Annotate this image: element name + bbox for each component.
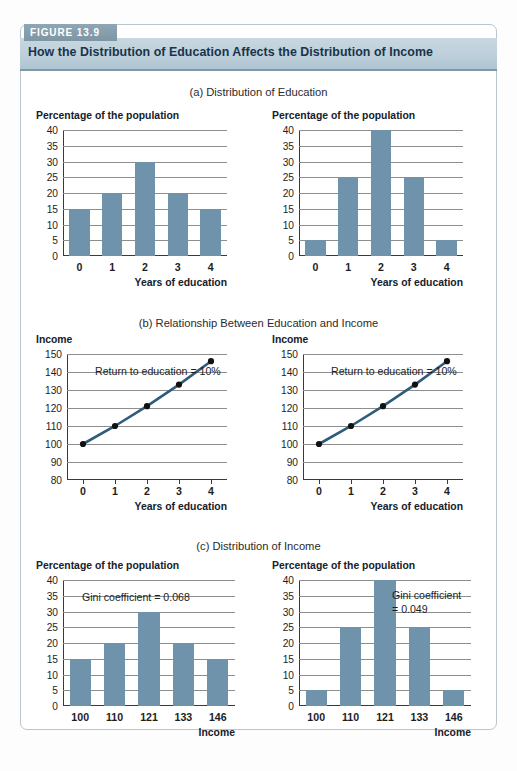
x-tick-label: 0	[312, 261, 318, 273]
x-tick-mark	[211, 479, 212, 484]
y-tick-label: 30	[47, 606, 58, 617]
bar	[173, 643, 194, 706]
figure-page: FIGURE 13.9 How the Distribution of Educ…	[0, 0, 517, 771]
y-tick-label: 100	[281, 439, 298, 450]
y-tick-label: 35	[283, 590, 294, 601]
x-tick-label: 121	[376, 711, 394, 723]
y-tick-label: 150	[281, 349, 298, 360]
y-tick-label: 10	[47, 219, 58, 230]
x-tick-label: 146	[445, 711, 463, 723]
chart-c-left: Percentage of the population051015202530…	[36, 560, 248, 726]
y-tick-label: 20	[47, 638, 58, 649]
bar	[305, 240, 325, 256]
x-tick-label: 2	[380, 485, 386, 497]
y-tick-label: 15	[47, 203, 58, 214]
section-c-caption: (c) Distribution of Income	[20, 540, 497, 552]
y-tick-label: 150	[45, 349, 62, 360]
section-a-caption: (a) Distribution of Education	[20, 86, 497, 98]
bar	[102, 193, 122, 256]
data-point	[112, 423, 118, 429]
chart-a-right: Percentage of the population051015202530…	[272, 110, 476, 276]
x-tick-label: 3	[411, 261, 417, 273]
bar	[104, 643, 125, 706]
x-tick-label: 133	[175, 711, 193, 723]
x-tick-label: 1	[348, 485, 354, 497]
x-axis-title: Income	[435, 727, 471, 738]
bar	[436, 240, 456, 256]
chart-axis-heading: Percentage of the population	[272, 560, 415, 571]
y-tick-label: 15	[283, 203, 294, 214]
chart-annotation: Return to education = 10%	[331, 364, 457, 378]
y-tick-label: 10	[47, 669, 58, 680]
x-tick-mark	[415, 479, 416, 484]
data-point	[144, 403, 150, 409]
x-tick-label: 2	[378, 261, 384, 273]
x-tick-label: 0	[76, 261, 82, 273]
grid-line	[63, 130, 227, 131]
y-tick-label: 140	[45, 367, 62, 378]
y-tick-label: 15	[47, 653, 58, 664]
x-tick-mark	[383, 479, 384, 484]
bar	[70, 659, 91, 706]
section-b-caption: (b) Relationship Between Education and I…	[20, 317, 497, 329]
chart-a-left: Percentage of the population051015202530…	[36, 110, 240, 276]
y-tick-label: 100	[45, 439, 62, 450]
x-tick-label: 4	[208, 485, 214, 497]
x-axis-title: Years of education	[371, 277, 463, 288]
chart-annotation-line1: Gini coefficient	[392, 588, 470, 602]
y-tick-label: 15	[283, 653, 294, 664]
y-tick-label: 20	[283, 638, 294, 649]
plot-area: 051015202530354001234	[63, 130, 227, 256]
bar	[338, 177, 358, 256]
chart-annotation: Return to education = 10%	[95, 364, 221, 378]
x-tick-mark	[83, 479, 84, 484]
grid-line	[63, 580, 235, 581]
y-tick-label: 35	[47, 140, 58, 151]
bar	[138, 612, 159, 707]
x-tick-mark	[351, 479, 352, 484]
y-tick-label: 90	[287, 457, 298, 468]
x-tick-label: 110	[106, 711, 123, 723]
x-tick-label: 1	[345, 261, 351, 273]
data-point	[412, 382, 418, 388]
x-tick-mark	[319, 479, 320, 484]
y-tick-label: 40	[283, 575, 294, 586]
chart-axis-heading: Percentage of the population	[36, 110, 179, 121]
plot-area: 051015202530354001234	[299, 130, 463, 256]
x-tick-label: 1	[109, 261, 115, 273]
y-tick-label: 10	[283, 219, 294, 230]
y-tick-label: 10	[283, 669, 294, 680]
x-tick-label: 2	[144, 485, 150, 497]
y-tick-label: 35	[47, 590, 58, 601]
y-tick-label: 25	[47, 622, 58, 633]
y-tick-label: 30	[283, 156, 294, 167]
y-tick-label: 5	[288, 235, 294, 246]
x-tick-label: 4	[444, 485, 450, 497]
x-tick-label: 3	[412, 485, 418, 497]
x-tick-mark	[447, 479, 448, 484]
x-tick-label: 2	[142, 261, 148, 273]
y-tick-label: 90	[51, 457, 62, 468]
x-axis-title: Income	[199, 727, 235, 738]
figure-number-label: FIGURE 13.9	[24, 24, 117, 41]
y-tick-label: 35	[283, 140, 294, 151]
x-tick-label: 4	[208, 261, 214, 273]
y-tick-label: 0	[288, 701, 294, 712]
x-axis-title: Years of education	[371, 501, 463, 512]
bar	[135, 162, 155, 257]
chart-axis-heading: Income	[272, 334, 308, 345]
x-tick-mark	[115, 479, 116, 484]
x-tick-label: 100	[71, 711, 89, 723]
figure-header-rule	[20, 69, 497, 71]
y-tick-label: 80	[51, 475, 62, 486]
x-axis-title: Years of education	[135, 501, 227, 512]
bar	[371, 130, 391, 256]
x-tick-mark	[179, 479, 180, 484]
grid-line	[63, 146, 227, 147]
y-tick-label: 120	[45, 403, 62, 414]
y-tick-label: 110	[46, 421, 62, 432]
x-tick-label: 4	[444, 261, 450, 273]
chart-annotation: Gini coefficient= 0.049	[392, 588, 470, 616]
x-tick-label: 0	[316, 485, 322, 497]
figure-title: How the Distribution of Education Affect…	[28, 45, 478, 59]
